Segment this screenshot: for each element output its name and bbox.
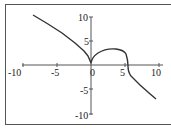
x-tick-label: -10	[8, 67, 21, 78]
function-curve	[33, 15, 156, 99]
x-tick-label: -5	[51, 67, 59, 78]
y-tick-label: 5	[84, 36, 89, 47]
y-tick-label: -10	[75, 110, 88, 121]
x-tick-label: 5	[120, 67, 125, 78]
y-tick-label: 10	[78, 12, 88, 23]
x-tick-label: 0	[90, 67, 95, 78]
x-tick-label: 10	[151, 67, 161, 78]
chart-svg: -10 -5 0 5 10 10 5 -5 -10	[0, 0, 171, 130]
y-tick-label: -5	[80, 85, 88, 96]
